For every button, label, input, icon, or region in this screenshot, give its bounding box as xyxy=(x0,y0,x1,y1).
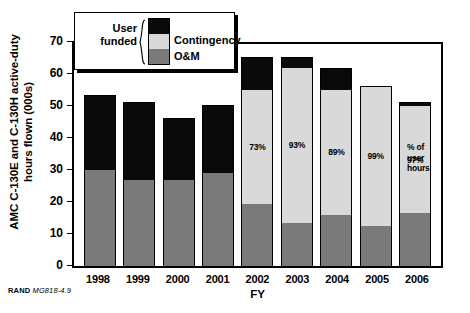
y-axis-tick-label: 20 xyxy=(50,194,63,208)
percent-note-line1: % of xyxy=(407,142,459,153)
bar-segment-om xyxy=(85,170,115,266)
y-axis-tick-label: 30 xyxy=(50,162,63,176)
bar-percent-label: 73% xyxy=(242,142,272,152)
y-axis-title: AMC C-130E and C-130H active-duty hours … xyxy=(7,12,47,252)
source-org: RAND xyxy=(8,286,30,295)
x-axis-tick-label-2003: 2003 xyxy=(282,271,312,289)
y-axis-tick-label: 40 xyxy=(50,130,63,144)
bar-segment-om xyxy=(282,223,312,266)
chart-figure: AMC C-130E and C-130H active-duty hours … xyxy=(0,0,470,313)
chart-legend: User funded Contingency O&M xyxy=(74,12,235,70)
bar-segment-user-funded xyxy=(124,103,154,180)
y-axis-title-line1: AMC C-130E and C-130H active-duty xyxy=(7,12,21,252)
bar-column-2002: 73% xyxy=(242,44,272,266)
legend-swatch-contingency xyxy=(149,34,169,49)
bar-column-2003: 93% xyxy=(282,44,312,266)
bar-segment-om xyxy=(164,180,194,266)
bar-segment-user-funded xyxy=(164,119,194,180)
source-id: MG818-4.9 xyxy=(33,286,71,295)
legend-brace-icon xyxy=(139,19,146,65)
bar-percent-label: 93% xyxy=(282,140,312,150)
y-axis-tick-label: 70 xyxy=(50,34,63,48)
stacked-bar[interactable]: 99% xyxy=(360,86,392,266)
bar-segment-om xyxy=(361,226,391,266)
percent-note-line3: hours xyxy=(407,163,459,174)
bar-segment-om xyxy=(400,213,430,266)
bar-column-2000 xyxy=(164,44,194,266)
legend-color-swatch xyxy=(148,18,170,65)
bar-group: 73%93%89%99%97% xyxy=(74,44,441,266)
bar-segment-om xyxy=(242,204,272,266)
stacked-bar[interactable]: 97% xyxy=(399,102,431,266)
bar-segment-user-funded xyxy=(282,58,312,68)
bar-segment-user-funded xyxy=(85,96,115,170)
x-axis-tick-label-2006: 2006 xyxy=(402,271,432,289)
stacked-bar[interactable]: 73% xyxy=(241,57,273,266)
x-axis-tick-labels: 199819992000200120022003200420052006 xyxy=(72,271,443,289)
legend-contingency-label: Contingency xyxy=(174,34,241,47)
y-axis-title-line2: hours flown (000s) xyxy=(21,12,35,252)
legend-swatch-om xyxy=(149,49,169,64)
x-axis-tick-label-2000: 2000 xyxy=(163,271,193,289)
y-axis-tick-label: 0 xyxy=(56,258,63,272)
bar-segment-user-funded xyxy=(242,58,272,90)
x-axis-tick-label-2002: 2002 xyxy=(242,271,272,289)
y-axis-tick-30: 30 xyxy=(67,169,74,170)
y-axis-tick-label: 10 xyxy=(50,226,63,240)
y-axis-tick-50: 50 xyxy=(67,105,74,106)
stacked-bar[interactable] xyxy=(123,102,155,266)
x-axis-tick-label-2004: 2004 xyxy=(322,271,352,289)
x-axis-tick-label-1999: 1999 xyxy=(123,271,153,289)
stacked-bar[interactable] xyxy=(202,105,234,266)
y-axis-tick-60: 60 xyxy=(67,73,74,74)
y-axis-tick-10: 10 xyxy=(67,233,74,234)
y-axis-tick-40: 40 xyxy=(67,137,74,138)
stacked-bar[interactable] xyxy=(84,95,116,266)
plot-area: 010203040506070 73%93%89%99%97% xyxy=(72,42,443,268)
source-note: RAND MG818-4.9 xyxy=(8,286,71,295)
y-axis-tick-20: 20 xyxy=(67,201,74,202)
stacked-bar[interactable]: 93% xyxy=(281,57,313,266)
legend-swatch-user-funded xyxy=(149,19,169,34)
legend-user-funded-line1: User xyxy=(113,22,137,34)
bar-column-1999 xyxy=(124,44,154,266)
stacked-bar[interactable]: 89% xyxy=(320,68,352,266)
x-axis-tick-label-2001: 2001 xyxy=(203,271,233,289)
bar-column-2001 xyxy=(203,44,233,266)
percent-note-line2: user xyxy=(407,153,459,164)
legend-user-funded-line2: funded xyxy=(100,35,137,47)
x-axis-tick-label-1998: 1998 xyxy=(83,271,113,289)
legend-user-funded-label: User funded xyxy=(81,22,137,48)
stacked-bar[interactable] xyxy=(163,118,195,266)
x-axis-title: FY xyxy=(72,288,443,300)
bar-segment-om xyxy=(124,180,154,266)
y-axis-tick-0: 0 xyxy=(67,265,74,266)
y-axis-tick-70: 70 xyxy=(67,41,74,42)
bar-column-2005: 99% xyxy=(361,44,391,266)
x-axis-tick-label-2005: 2005 xyxy=(362,271,392,289)
bar-percent-label: 99% xyxy=(361,151,391,161)
bar-segment-om xyxy=(203,173,233,266)
bar-column-1998 xyxy=(85,44,115,266)
bar-segment-om xyxy=(321,215,351,266)
percent-of-user-hours-note: % of user hours xyxy=(407,142,459,174)
y-axis-tick-label: 50 xyxy=(50,98,63,112)
bar-column-2004: 89% xyxy=(321,44,351,266)
legend-om-label: O&M xyxy=(174,50,200,63)
y-axis-tick-label: 60 xyxy=(50,66,63,80)
bar-segment-user-funded xyxy=(203,106,233,173)
bar-segment-user-funded xyxy=(321,69,351,90)
bar-percent-label: 89% xyxy=(321,147,351,157)
